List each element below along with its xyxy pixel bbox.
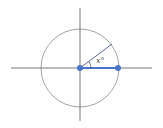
angle-label: x° <box>96 56 105 65</box>
center-point <box>77 65 83 71</box>
circle-point <box>115 65 121 71</box>
unit-circle-diagram: x° <box>0 0 163 128</box>
